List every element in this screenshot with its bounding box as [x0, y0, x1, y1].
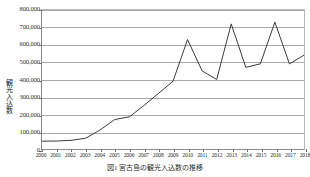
x-axis-tick-labels: 2000200120022003200420052006200720082009…	[41, 152, 305, 162]
x-tick-label: 2000	[36, 152, 47, 158]
x-tick-label: 2018	[300, 152, 310, 158]
figure-caption: 図1 宮古島の観光入込数の推移	[0, 164, 310, 173]
y-tick-label: 600,000	[20, 41, 40, 48]
x-tick-label: 2002	[65, 152, 76, 158]
x-tick-label: 2006	[124, 152, 135, 158]
y-tick-label: 700,000	[20, 23, 40, 30]
plot-area	[41, 9, 305, 150]
x-tick-label: 2003	[80, 152, 91, 158]
chart-figure: 観光入込数 0100,000200,000300,000400,000500,0…	[0, 0, 310, 177]
x-tick-label: 2012	[212, 152, 223, 158]
x-tick-label: 2017	[285, 152, 296, 158]
x-tick-label: 2009	[168, 152, 179, 158]
y-axis-tick-labels: 0100,000200,000300,000400,000500,000600,…	[12, 0, 40, 155]
y-tick-label: 800,000	[20, 6, 40, 13]
x-tick-label: 2001	[50, 152, 61, 158]
y-tick-label: 500,000	[20, 59, 40, 66]
y-tick-label: 100,000	[20, 129, 40, 136]
x-tick-label: 2008	[153, 152, 164, 158]
x-tick-label: 2010	[182, 152, 193, 158]
x-tick-label: 2005	[109, 152, 120, 158]
y-tick-label: 200,000	[20, 112, 40, 119]
x-tick-label: 2011	[197, 152, 207, 158]
x-tick-label: 2004	[94, 152, 105, 158]
x-tick-label: 2013	[226, 152, 237, 158]
y-axis-title: 観光入込数	[1, 64, 12, 128]
y-tick-label: 300,000	[20, 94, 40, 101]
y-tick-label: 400,000	[20, 76, 40, 83]
line-series	[42, 10, 304, 149]
x-tick-label: 2007	[138, 152, 149, 158]
x-tick-label: 2015	[256, 152, 267, 158]
x-tick-label: 2016	[270, 152, 281, 158]
x-tick-label: 2014	[241, 152, 252, 158]
